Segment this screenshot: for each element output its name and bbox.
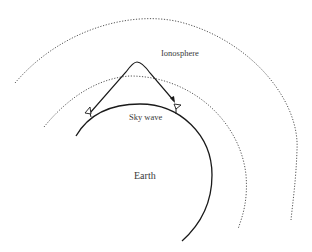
earth-label: Earth xyxy=(134,170,156,181)
receiving-antenna-icon xyxy=(174,104,181,109)
transmitting-antenna-icon xyxy=(85,107,91,114)
sky-wave-path xyxy=(90,62,174,113)
ionosphere-label: Ionosphere xyxy=(161,48,199,58)
sky-wave-diagram: Ionosphere Sky wave Earth xyxy=(0,0,312,252)
sky-wave-label: Sky wave xyxy=(129,112,163,122)
ionosphere-lower-boundary xyxy=(44,76,246,229)
